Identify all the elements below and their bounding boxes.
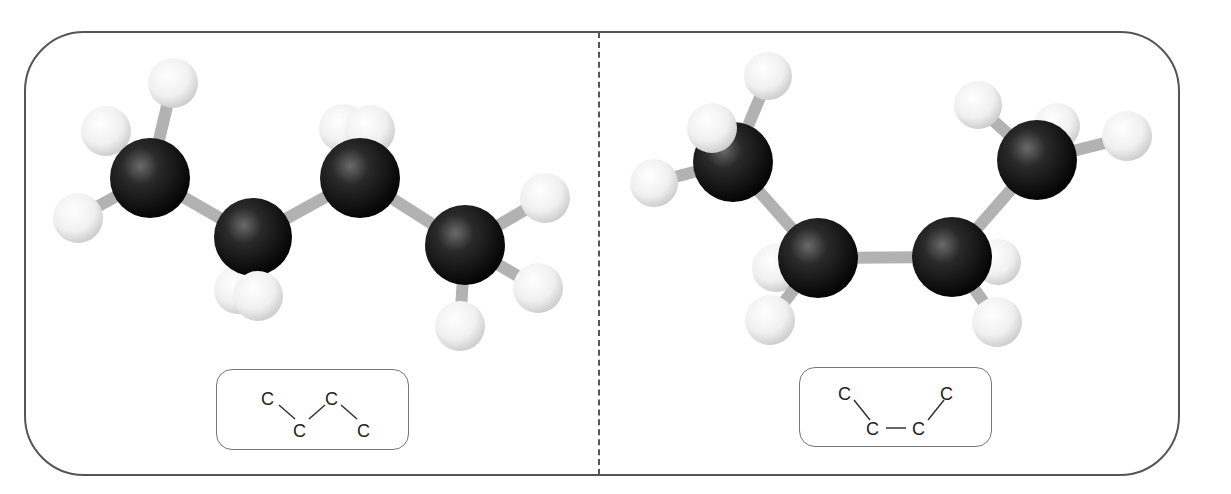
hydrogen-atom bbox=[520, 173, 570, 223]
molecule-scene bbox=[0, 0, 1231, 494]
gauche-skeletal-formula-box: C C C C bbox=[799, 367, 992, 447]
hydrogen-atom bbox=[687, 103, 737, 153]
anti-butane-model bbox=[53, 58, 570, 351]
anti-skeletal-formula: C C C C bbox=[217, 370, 410, 451]
carbon-atom bbox=[320, 138, 400, 218]
hydrogen-atom bbox=[233, 271, 283, 321]
hydrogen-atom bbox=[148, 58, 198, 108]
carbon-atom bbox=[214, 198, 292, 276]
hydrogen-atom bbox=[1102, 111, 1152, 161]
hydrogen-atom bbox=[513, 263, 563, 313]
carbon-label: C bbox=[838, 384, 851, 404]
hydrogen-atom bbox=[630, 159, 678, 207]
carbon-label: C bbox=[325, 389, 338, 409]
carbon-atom bbox=[425, 205, 505, 285]
carbon-label: C bbox=[261, 389, 274, 409]
carbon-atom bbox=[912, 217, 992, 297]
hydrogen-atom bbox=[972, 297, 1022, 347]
carbon-atom bbox=[778, 218, 858, 298]
hydrogen-atom bbox=[745, 295, 795, 345]
carbon-label: C bbox=[940, 384, 953, 404]
carbon-label: C bbox=[866, 419, 879, 439]
carbon-atom bbox=[110, 138, 190, 218]
gauche-butane-model bbox=[630, 52, 1152, 347]
carbon-label: C bbox=[293, 421, 306, 441]
hydrogen-atom bbox=[744, 52, 792, 100]
hydrogen-atom bbox=[53, 193, 103, 243]
carbon-label: C bbox=[357, 421, 370, 441]
carbon-atom bbox=[997, 120, 1077, 200]
carbon-label: C bbox=[912, 419, 925, 439]
hydrogen-atom bbox=[435, 301, 485, 351]
anti-skeletal-formula-box: C C C C bbox=[216, 369, 409, 450]
gauche-skeletal-formula: C C C C bbox=[800, 368, 993, 448]
hydrogen-atom bbox=[954, 81, 1002, 129]
